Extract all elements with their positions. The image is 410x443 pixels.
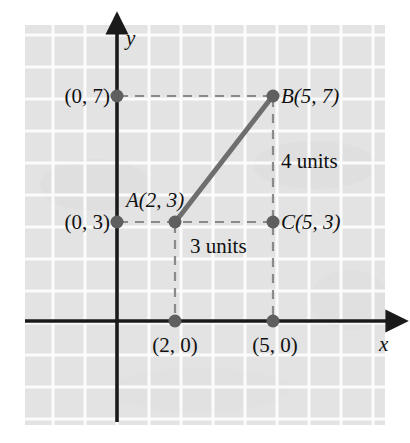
- label-point-b: B(5, 7): [281, 84, 339, 108]
- point-0-7: [111, 90, 124, 103]
- label-x-intercept-2: (2, 0): [152, 333, 198, 357]
- label-point-a: A(2, 3): [124, 188, 184, 212]
- label-y-intercept-7: (0, 7): [65, 84, 111, 108]
- label-x-intercept-5: (5, 0): [252, 333, 298, 357]
- coordinate-plane-figure: (0, 7) (0, 3) A(2, 3) B(5, 7) C(5, 3) (2…: [0, 0, 410, 443]
- point-2-0: [169, 315, 182, 328]
- label-horizontal-leg: 3 units: [190, 234, 247, 258]
- y-axis-label: y: [124, 26, 136, 50]
- label-y-intercept-3: (0, 3): [65, 210, 111, 234]
- label-point-c: C(5, 3): [281, 210, 341, 234]
- point-c: [267, 216, 280, 229]
- point-a: [169, 216, 182, 229]
- label-vertical-leg: 4 units: [281, 149, 338, 173]
- figure-container: (0, 7) (0, 3) A(2, 3) B(5, 7) C(5, 3) (2…: [0, 0, 410, 443]
- point-5-0: [267, 315, 280, 328]
- point-b: [267, 90, 280, 103]
- point-0-3: [111, 216, 124, 229]
- x-axis-label: x: [378, 332, 389, 356]
